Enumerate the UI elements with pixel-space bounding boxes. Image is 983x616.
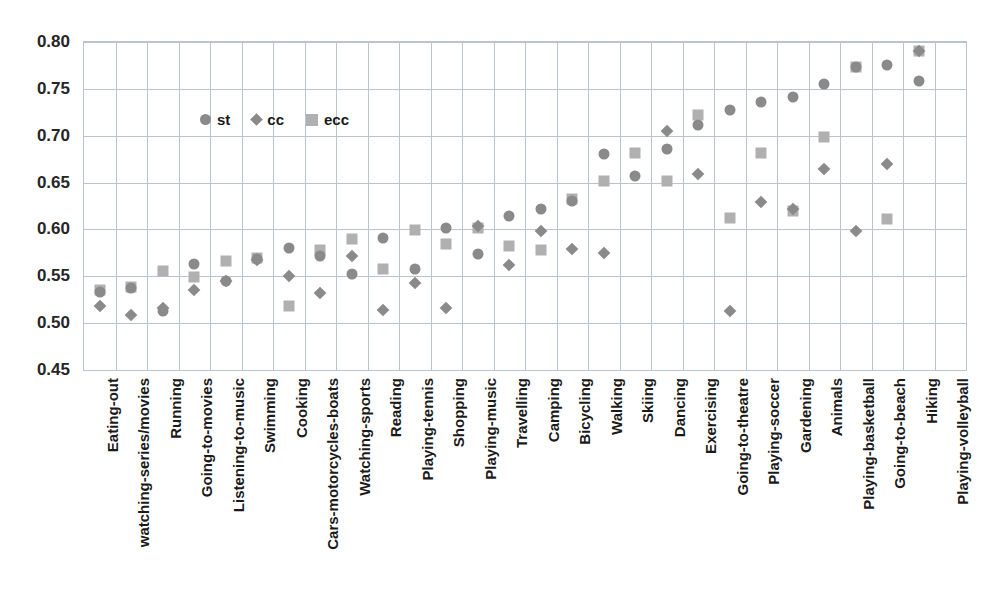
- gridline-horizontal: [84, 370, 966, 371]
- y-axis-tick-label: 0.70: [14, 126, 70, 143]
- gridline-vertical: [809, 42, 810, 370]
- x-axis-tick-label: Going-to-theatre: [735, 378, 750, 496]
- y-axis-tick-label: 0.60: [14, 220, 70, 237]
- gridline-vertical: [872, 42, 873, 370]
- x-axis-tick-label: Camping: [546, 378, 561, 442]
- data-point-ecc: [630, 147, 641, 158]
- data-point-cc: [881, 157, 894, 170]
- data-point-st: [472, 248, 483, 259]
- x-axis-tick-label: Playing-basketball: [861, 378, 876, 510]
- scatter-chart: 0.800.750.700.650.600.550.500.45 stccecc…: [0, 0, 983, 616]
- chart-legend: stccecc: [200, 112, 349, 127]
- legend-entry-ecc: ecc: [306, 112, 349, 127]
- x-axis-tick-label: Playing-tennis: [420, 378, 435, 481]
- square-marker-icon: [306, 114, 318, 126]
- gridline-vertical: [242, 42, 243, 370]
- x-axis-tick-label: Exercising: [703, 378, 718, 454]
- x-axis-tick-label: Playing-volleyball: [955, 378, 970, 505]
- gridline-vertical: [399, 42, 400, 370]
- data-point-cc: [377, 304, 390, 317]
- x-axis-tick-label: Bicycling: [577, 378, 592, 445]
- plot-area: [83, 41, 967, 371]
- data-point-cc: [818, 162, 831, 175]
- gridline-vertical: [840, 42, 841, 370]
- x-axis-tick-label: Shopping: [451, 378, 466, 447]
- y-axis-tick-label: 0.55: [14, 267, 70, 284]
- data-point-ecc: [441, 239, 452, 250]
- data-point-st: [504, 211, 515, 222]
- data-point-ecc: [535, 245, 546, 256]
- gridline-vertical: [147, 42, 148, 370]
- data-point-cc: [125, 308, 138, 321]
- legend-entry-cc: cc: [252, 112, 284, 127]
- x-axis-tick-label: watching-series/movies: [136, 378, 151, 547]
- x-axis-tick-label: Walking: [609, 378, 624, 435]
- x-axis-tick-label: Swimming: [262, 378, 277, 453]
- y-axis-tick-label: 0.45: [14, 361, 70, 378]
- x-axis-tick-label: Dancing: [672, 378, 687, 437]
- data-point-st: [756, 96, 767, 107]
- gridline-vertical: [273, 42, 274, 370]
- data-point-cc: [188, 284, 201, 297]
- data-point-st: [378, 232, 389, 243]
- x-axis-tick-label: Travelling: [514, 378, 529, 448]
- x-axis-labels: Eating-outwatching-series/moviesRunningG…: [83, 372, 967, 602]
- data-point-st: [346, 269, 357, 280]
- gridline-vertical: [714, 42, 715, 370]
- data-point-st: [913, 76, 924, 87]
- data-point-st: [441, 223, 452, 234]
- gridline-vertical: [557, 42, 558, 370]
- gridline-vertical: [651, 42, 652, 370]
- data-point-cc: [597, 246, 610, 259]
- gridline-vertical: [462, 42, 463, 370]
- data-point-cc: [723, 305, 736, 318]
- gridline-vertical: [336, 42, 337, 370]
- gridline-vertical: [903, 42, 904, 370]
- x-axis-tick-label: Skiing: [640, 378, 655, 423]
- data-point-cc: [534, 225, 547, 238]
- data-point-ecc: [882, 214, 893, 225]
- gridline-vertical: [525, 42, 526, 370]
- diamond-marker-icon: [250, 113, 263, 126]
- x-axis-tick-label: Cars-motorcycles-boats: [325, 378, 340, 550]
- data-point-cc: [503, 259, 516, 272]
- x-axis-tick-label: Going-to-movies: [199, 378, 214, 497]
- x-axis-tick-label: Gardening: [798, 378, 813, 453]
- gridline-vertical: [368, 42, 369, 370]
- gridline-vertical: [746, 42, 747, 370]
- circle-marker-icon: [200, 114, 211, 125]
- y-axis-tick-label: 0.50: [14, 314, 70, 331]
- data-point-cc: [849, 225, 862, 238]
- y-axis-tick-label: 0.75: [14, 79, 70, 96]
- data-point-st: [94, 287, 105, 298]
- data-point-cc: [314, 287, 327, 300]
- data-point-ecc: [346, 233, 357, 244]
- data-point-cc: [408, 276, 421, 289]
- gridline-vertical: [588, 42, 589, 370]
- data-point-st: [882, 60, 893, 71]
- x-axis-tick-label: Eating-out: [105, 378, 120, 452]
- legend-entry-st: st: [200, 112, 230, 127]
- data-point-st: [567, 196, 578, 207]
- data-point-ecc: [756, 147, 767, 158]
- data-point-cc: [755, 196, 768, 209]
- data-point-ecc: [504, 241, 515, 252]
- data-point-cc: [440, 302, 453, 315]
- x-axis-tick-label: Animals: [829, 378, 844, 436]
- legend-label: ecc: [324, 112, 349, 127]
- data-point-ecc: [283, 301, 294, 312]
- gridline-vertical: [935, 42, 936, 370]
- x-axis-tick-label: Reading: [388, 378, 403, 437]
- data-point-cc: [282, 270, 295, 283]
- data-point-st: [315, 250, 326, 261]
- legend-label: st: [217, 112, 230, 127]
- data-point-st: [819, 79, 830, 90]
- gridline-vertical: [620, 42, 621, 370]
- data-point-cc: [566, 243, 579, 256]
- data-point-st: [661, 143, 672, 154]
- x-axis-tick-label: Watching-sports: [357, 378, 372, 496]
- data-point-st: [126, 283, 137, 294]
- data-point-st: [189, 259, 200, 270]
- data-point-st: [598, 149, 609, 160]
- gridline-vertical: [683, 42, 684, 370]
